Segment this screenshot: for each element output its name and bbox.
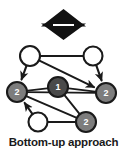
graph-node[interactable]: 2 bbox=[7, 82, 27, 102]
graph-node[interactable]: 1 bbox=[48, 77, 68, 97]
graph-edge bbox=[96, 64, 102, 81]
node-label: 2 bbox=[83, 117, 88, 127]
graph-edge bbox=[22, 64, 27, 79]
figure-caption: Bottom-up approach bbox=[0, 136, 127, 148]
node-label: 2 bbox=[103, 88, 108, 98]
graph-canvas: 2122 bbox=[0, 0, 127, 140]
graph-node[interactable] bbox=[84, 47, 103, 66]
graph-edge bbox=[67, 88, 98, 92]
graph-node[interactable] bbox=[29, 113, 48, 132]
node-circle bbox=[29, 113, 48, 132]
node-label: 2 bbox=[14, 87, 19, 97]
graph-node[interactable]: 2 bbox=[96, 83, 116, 103]
graph-nodes: 2122 bbox=[7, 46, 116, 132]
node-label: 1 bbox=[55, 82, 60, 92]
graph-node[interactable]: 2 bbox=[76, 112, 96, 132]
graph-node[interactable] bbox=[20, 46, 40, 66]
node-circle bbox=[20, 46, 40, 66]
bottom-up-approach-figure: 2122 Bottom-up approach bbox=[0, 0, 127, 157]
graph-edge bbox=[64, 94, 81, 115]
node-circle bbox=[84, 47, 103, 66]
graph-edge bbox=[26, 88, 50, 91]
